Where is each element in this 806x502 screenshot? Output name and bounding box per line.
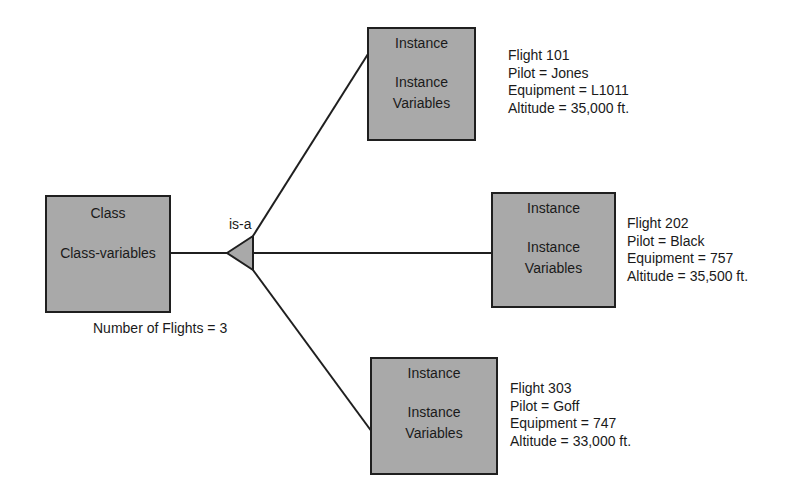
flight-name: Flight 101 bbox=[508, 47, 629, 65]
class-note: Number of Flights = 3 bbox=[93, 320, 227, 336]
flight-name: Flight 303 bbox=[510, 380, 631, 398]
instance-variables-line2: Variables bbox=[372, 425, 496, 442]
altitude: Altitude = 33,000 ft. bbox=[510, 433, 631, 451]
instance-variables-line1: Instance bbox=[369, 74, 474, 91]
instance-box-3: Instance Instance Variables bbox=[370, 357, 498, 475]
equipment: Equipment = L1011 bbox=[508, 82, 629, 100]
instance-info-3: Flight 303 Pilot = Goff Equipment = 747 … bbox=[510, 380, 631, 450]
instance-title: Instance bbox=[369, 35, 474, 52]
altitude: Altitude = 35,500 ft. bbox=[627, 268, 748, 286]
instance-title: Instance bbox=[372, 365, 496, 382]
pilot: Pilot = Jones bbox=[508, 65, 629, 83]
class-variables: Class-variables bbox=[47, 245, 169, 262]
instance-variables: Instance Variables bbox=[493, 239, 614, 277]
pilot: Pilot = Black bbox=[627, 233, 748, 251]
instance-box-2: Instance Instance Variables bbox=[491, 192, 616, 308]
instance-box-1: Instance Instance Variables bbox=[367, 27, 476, 141]
instance-info-2: Flight 202 Pilot = Black Equipment = 757… bbox=[627, 215, 748, 285]
is-a-label: is-a bbox=[229, 216, 252, 232]
instance-variables: Instance Variables bbox=[372, 404, 496, 442]
instance-info-1: Flight 101 Pilot = Jones Equipment = L10… bbox=[508, 47, 629, 117]
class-box: Class Class-variables bbox=[45, 195, 171, 313]
is-a-triangle bbox=[227, 236, 253, 270]
instance-variables-line1: Instance bbox=[493, 239, 614, 256]
instance-variables-line1: Instance bbox=[372, 404, 496, 421]
pilot: Pilot = Goff bbox=[510, 398, 631, 416]
flight-name: Flight 202 bbox=[627, 215, 748, 233]
instance-title: Instance bbox=[493, 200, 614, 217]
instance-variables: Instance Variables bbox=[369, 74, 474, 112]
instance-variables-line2: Variables bbox=[369, 95, 474, 112]
instance-variables-line2: Variables bbox=[493, 260, 614, 277]
equipment: Equipment = 747 bbox=[510, 415, 631, 433]
equipment: Equipment = 757 bbox=[627, 250, 748, 268]
altitude: Altitude = 35,000 ft. bbox=[508, 100, 629, 118]
class-title: Class bbox=[47, 205, 169, 222]
